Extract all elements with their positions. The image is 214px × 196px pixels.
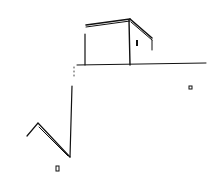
small-square-right	[189, 86, 192, 89]
building-sketch	[85, 19, 152, 65]
small-square-left	[56, 166, 59, 171]
zigzag-line-double	[39, 127, 68, 156]
roof-slope-2	[131, 22, 152, 40]
window	[136, 40, 138, 46]
horizon-line	[77, 63, 206, 65]
sketch-canvas	[0, 0, 214, 196]
roof-slope	[130, 19, 152, 38]
vertical-line	[70, 86, 72, 157]
wall-corner	[129, 20, 130, 65]
